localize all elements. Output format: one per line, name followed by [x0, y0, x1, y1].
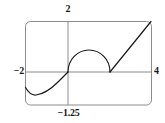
y-axis-top-tick-label: 2: [0, 4, 136, 14]
x-axis-left-tick-label: −2: [2, 66, 24, 76]
curve-left-segment: [26, 72, 69, 95]
plot-canvas: [0, 0, 165, 123]
x-axis-right-tick-label: 4: [154, 66, 165, 76]
curve-rising-line: [110, 22, 151, 73]
y-axis-bottom-tick-label: −1.25: [28, 108, 109, 118]
curve-semicircle-arc: [68, 50, 110, 72]
graph-figure: 2 −2 4 −1.25: [0, 0, 165, 123]
